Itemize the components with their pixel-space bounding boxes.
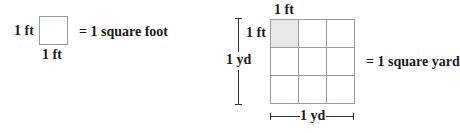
grid-cell [271, 76, 299, 104]
grid-cell [299, 48, 327, 76]
square-yard-grid [270, 19, 355, 104]
horizontal-dimension-label: 1 yd [300, 109, 325, 123]
square-yard-equation: = 1 square yard [366, 55, 460, 69]
grid-cell [327, 48, 355, 76]
grid-cell [327, 20, 355, 48]
grid-cell [299, 76, 327, 104]
grid-cell-shaded [271, 20, 299, 48]
grid-cell [327, 76, 355, 104]
top-cell-label: 1 ft [274, 3, 294, 17]
square-foot-left-label: 1 ft [14, 24, 34, 38]
square-foot-equation: = 1 square foot [79, 25, 168, 39]
horizontal-dimension-right-tick [353, 113, 354, 120]
vertical-dimension-label: 1 yd [226, 53, 251, 67]
grid-cell [271, 48, 299, 76]
vertical-dimension-line-top [238, 18, 239, 52]
horizontal-dimension-line-right [326, 116, 354, 117]
horizontal-dimension-line-left [270, 116, 300, 117]
grid-cell [299, 20, 327, 48]
vertical-dimension-line-bottom [238, 70, 239, 104]
square-foot-box [39, 16, 68, 45]
left-cell-label: 1 ft [246, 26, 266, 40]
vertical-dimension-bottom-tick [235, 104, 242, 105]
square-foot-bottom-label: 1 ft [42, 48, 62, 62]
